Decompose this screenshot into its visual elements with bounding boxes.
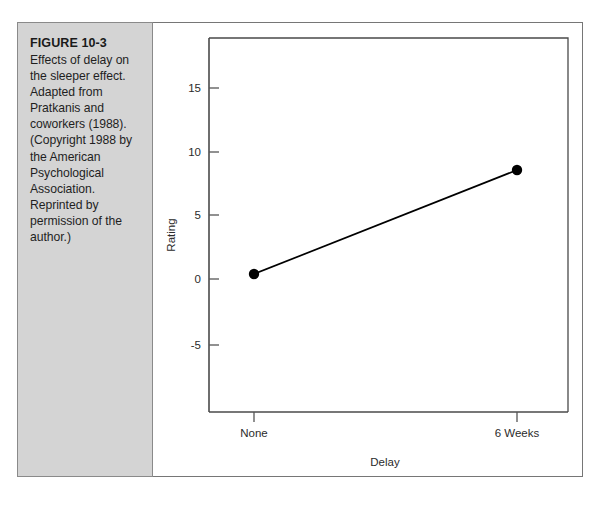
figure-caption-title: FIGURE 10-3	[30, 36, 141, 51]
line-chart: 15 10 5 0 -5 Rating None 6 Weeks Delay	[153, 22, 583, 477]
y-axis-title: Rating	[165, 218, 177, 251]
data-point-6-weeks	[512, 165, 522, 175]
data-point-none	[249, 269, 259, 279]
x-axis-ticks	[254, 412, 517, 422]
chart-container: 15 10 5 0 -5 Rating None 6 Weeks Delay	[153, 22, 583, 477]
y-tick-label-0: 0	[195, 273, 201, 285]
y-tick-label-minus-5: -5	[191, 339, 201, 351]
plot-frame	[209, 38, 568, 412]
x-tick-label-none: None	[240, 427, 268, 439]
y-tick-label-15: 15	[188, 82, 201, 94]
y-axis-ticks	[209, 88, 219, 345]
figure-caption-panel: FIGURE 10-3 Effects of delay on the slee…	[17, 22, 153, 477]
x-tick-label-6-weeks: 6 Weeks	[495, 427, 540, 439]
y-tick-label-5: 5	[195, 209, 201, 221]
figure-caption-body: Effects of delay on the sleeper effect. …	[30, 52, 141, 245]
y-tick-label-10: 10	[188, 146, 201, 158]
x-axis-title: Delay	[370, 456, 400, 468]
series-line-segment	[254, 170, 517, 274]
